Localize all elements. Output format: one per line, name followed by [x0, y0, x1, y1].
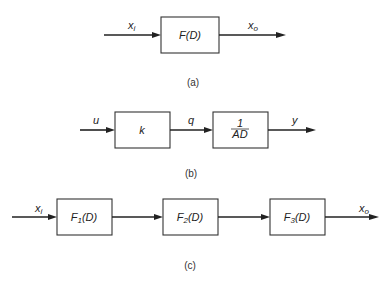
arrow-icon [276, 32, 286, 38]
arrow-icon [48, 214, 57, 220]
block-k-label: k [139, 124, 145, 136]
fraction-denominator: AD [231, 128, 247, 140]
diagram-c: F1(D) F2(D) F3(D) xi xo (c) [12, 199, 379, 271]
arrow-icon [152, 32, 161, 38]
arrow-icon [369, 214, 379, 220]
diagram-b: k 1 AD u q y (b) [80, 112, 316, 179]
output-label: y [291, 114, 299, 126]
arrow-icon [106, 127, 115, 133]
block-f3-label: F3(D) [284, 211, 311, 225]
arrow-icon [154, 214, 163, 220]
arrow-icon [306, 127, 316, 133]
input-label: u [93, 114, 99, 126]
output-label: xo [358, 202, 370, 216]
output-label: xo [247, 19, 259, 33]
middle-label: q [188, 114, 195, 126]
input-label: xi [34, 202, 43, 216]
caption-a: (a) [187, 77, 199, 88]
arrow-icon [261, 214, 270, 220]
caption-c: (c) [184, 260, 196, 271]
diagram-a: F(D) xi xo (a) [104, 17, 286, 88]
block-f2-label: F2(D) [177, 211, 204, 225]
arrow-icon [204, 127, 213, 133]
block-f1-label: F1(D) [71, 211, 98, 225]
caption-b: (b) [185, 168, 197, 179]
input-label: xi [127, 19, 136, 33]
block-label: F(D) [179, 29, 201, 41]
block-diagrams: F(D) xi xo (a) k 1 AD u q y (b) F1(D) F2… [0, 0, 392, 282]
